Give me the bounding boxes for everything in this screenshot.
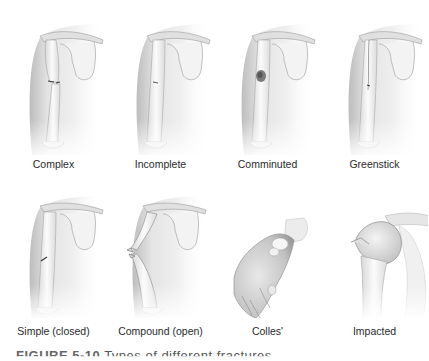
label-greenstick: Greenstick [321, 158, 428, 170]
impacted-fracture-shoulder-illustration [321, 178, 428, 320]
panel-colles: Colles' [214, 178, 321, 348]
colles-fracture-wrist-illustration [214, 178, 321, 320]
figure-number: FIGURE 5-10 [16, 348, 100, 361]
compound-fracture-illustration [107, 178, 214, 320]
label-colles: Colles' [214, 325, 321, 337]
comminuted-fracture-illustration [214, 0, 321, 160]
greenstick-fracture-illustration [321, 0, 428, 160]
panel-complex: Complex [0, 0, 107, 180]
panel-impacted: Impacted [321, 178, 428, 348]
panel-comminuted: Comminuted [214, 0, 321, 180]
incomplete-fracture-illustration [107, 0, 214, 160]
panel-incomplete: Incomplete [107, 0, 214, 180]
simple-fracture-illustration [0, 178, 107, 320]
figure-caption-text: Types of different fractures [104, 348, 272, 361]
label-complex: Complex [0, 158, 107, 170]
label-incomplete: Incomplete [107, 158, 214, 170]
label-compound-open: Compound (open) [107, 325, 214, 337]
panel-greenstick: Greenstick [321, 0, 428, 180]
label-simple-closed: Simple (closed) [0, 325, 107, 337]
complex-fracture-illustration [0, 0, 107, 160]
figure-caption: FIGURE 5-10 Types of different fractures [16, 348, 272, 361]
panel-compound-open: Compound (open) [107, 178, 214, 348]
label-impacted: Impacted [321, 325, 428, 337]
label-comminuted: Comminuted [214, 158, 321, 170]
panel-simple-closed: Simple (closed) [0, 178, 107, 348]
